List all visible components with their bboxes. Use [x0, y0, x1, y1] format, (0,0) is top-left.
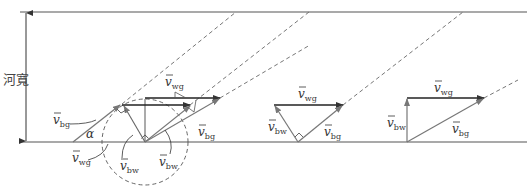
- dashed-path-3: [220, 45, 310, 98]
- svg-text:vbg: vbg: [198, 125, 215, 141]
- svg-text:vbg: vbg: [452, 122, 469, 138]
- river-crossing-diagram: 河寬 α vbg vwg vbw vbw vwg v: [0, 0, 527, 191]
- svg-text:vwg: vwg: [434, 81, 453, 97]
- svg-text:vwg: vwg: [72, 151, 91, 167]
- label-left-vwg: vwg: [72, 151, 91, 167]
- label-right-vbw: vbw: [387, 116, 406, 132]
- label-left-top-vwg: vwg: [165, 75, 184, 91]
- right-angle-mark-left: [117, 109, 126, 113]
- left-vbg-diag-1: [145, 106, 190, 142]
- label-left-vbw: vbw: [120, 159, 139, 175]
- leader-vbg-left: [70, 120, 96, 124]
- svg-text:vbg: vbg: [53, 113, 70, 129]
- right-vbg-vector: [407, 99, 483, 142]
- dashed-path-2: [190, 12, 309, 105]
- label-mid-vbg: vbg: [324, 125, 341, 141]
- label-mid-vbw: vbw: [268, 120, 287, 136]
- svg-text:vwg: vwg: [298, 87, 317, 103]
- label-mid-vwg: vwg: [298, 87, 317, 103]
- angle-alpha-label: α: [86, 127, 94, 141]
- river-width-label: 河寬: [3, 72, 29, 87]
- right-angle-mark-top: [175, 92, 186, 98]
- label-left-right-vbg: vbg: [198, 125, 215, 141]
- leader-vbw-left: [122, 135, 133, 158]
- label-right-vwg: vwg: [434, 81, 453, 97]
- label-left-vbg: vbg: [53, 113, 70, 129]
- mid-vbw-vector: [275, 106, 298, 142]
- label-right-vbg: vbg: [452, 122, 469, 138]
- dashed-path-5: [484, 80, 518, 98]
- right-angle-mark-right: [186, 100, 196, 112]
- mid-right-angle-mark: [295, 133, 303, 137]
- leader-vwg-left: [88, 144, 108, 160]
- svg-text:vbw: vbw: [159, 155, 178, 171]
- svg-text:vbw: vbw: [387, 116, 406, 132]
- label-left-vbw-2: vbw: [159, 155, 178, 171]
- svg-text:vbw: vbw: [268, 120, 287, 136]
- svg-text:vbg: vbg: [324, 125, 341, 141]
- svg-text:vbw: vbw: [120, 159, 139, 175]
- left-vbw-vector: [124, 106, 145, 142]
- svg-text:vwg: vwg: [165, 75, 184, 91]
